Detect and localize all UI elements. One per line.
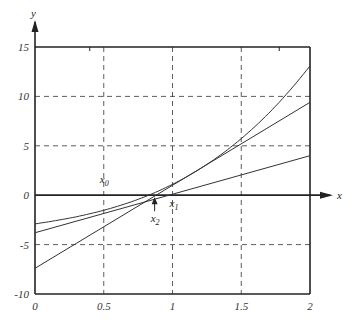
y-tick-label: 5	[24, 140, 30, 152]
chart: yx151050-5-1000.511.52x0x1x2	[0, 0, 354, 327]
x-axis-label: x	[336, 189, 342, 201]
y-tick-label: 15	[18, 41, 30, 53]
y-axis-arrow-icon	[32, 20, 39, 32]
series-line	[35, 102, 310, 268]
y-tick-label: -10	[14, 288, 29, 300]
y-tick-label: -5	[20, 239, 30, 251]
x-axis-arrow-icon	[320, 192, 333, 199]
y-axis-label: y	[30, 7, 36, 19]
y-tick-label: 0	[24, 189, 30, 201]
x2-label: x2	[150, 212, 160, 227]
x-tick-label: 0.5	[97, 300, 111, 312]
x0-label: x0	[99, 173, 109, 188]
x-tick-label: 0	[32, 300, 38, 312]
x1-label: x1	[169, 197, 179, 212]
x-tick-label: 1	[170, 300, 176, 312]
x-tick-label: 1.5	[234, 300, 248, 312]
x-tick-label: 2	[307, 300, 313, 312]
y-tick-label: 10	[18, 90, 30, 102]
